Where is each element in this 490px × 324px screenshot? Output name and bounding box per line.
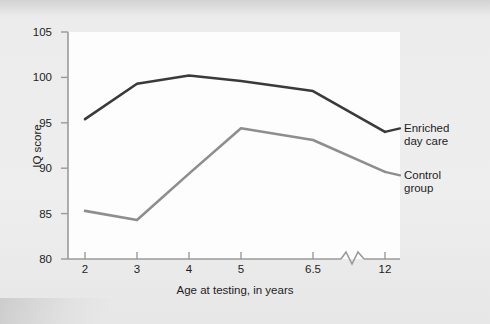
series-label-leader-control xyxy=(385,172,400,176)
x-tick-label-12: 12 xyxy=(365,263,405,275)
y-axis-title: IQ score xyxy=(31,101,43,191)
x-tick-label-6-5: 6.5 xyxy=(293,263,333,275)
x-tick-label-4: 4 xyxy=(169,263,209,275)
series-line-control-group xyxy=(85,128,385,220)
figure-container: 105 100 95 90 85 80 2 3 4 5 6.5 12 IQ sc… xyxy=(0,0,490,324)
series-label-control-line1: Control xyxy=(404,169,441,181)
y-tick-label-80: 80 xyxy=(18,253,52,265)
x-tick-label-3: 3 xyxy=(117,263,157,275)
x-axis-title: Age at testing, in years xyxy=(110,284,360,296)
x-tick-label-2: 2 xyxy=(65,263,105,275)
series-label-leader-enriched xyxy=(385,128,400,132)
y-tick-label-105: 105 xyxy=(18,26,52,38)
y-axis-ticks xyxy=(61,32,68,259)
axis-break-zigzag xyxy=(341,252,364,264)
x-tick-label-5: 5 xyxy=(221,263,261,275)
series-line-enriched-day-care xyxy=(85,76,385,132)
y-tick-label-100: 100 xyxy=(18,71,52,83)
x-axis-ticks xyxy=(85,252,385,259)
series-label-enriched-line2: day care xyxy=(404,135,448,147)
y-tick-label-85: 85 xyxy=(18,208,52,220)
series-label-enriched-line1: Enriched xyxy=(404,122,449,134)
series-label-control-line2: group xyxy=(404,182,433,194)
series-label-control-group: Control group xyxy=(404,169,441,195)
series-label-enriched-day-care: Enriched day care xyxy=(404,122,449,148)
line-chart xyxy=(0,0,490,324)
